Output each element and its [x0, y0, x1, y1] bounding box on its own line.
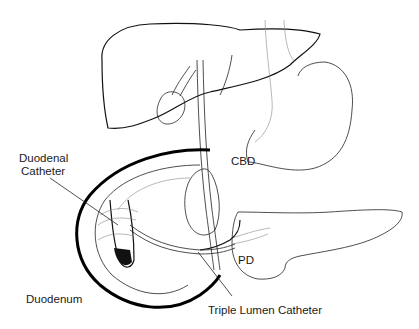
gallbladder [157, 66, 196, 124]
liver-outline [102, 23, 320, 128]
common-bile-duct [197, 60, 220, 270]
label-triple-lumen-catheter: Triple Lumen Catheter [208, 304, 322, 317]
label-cbd: CBD [231, 155, 255, 168]
label-duodenum: Duodenum [26, 293, 82, 306]
label-duodenal-catheter-1: Duodenal [19, 152, 68, 165]
label-duodenal-catheter-2: Catheter [21, 165, 65, 178]
leader-triple-lumen-catheter [198, 252, 232, 296]
anatomical-diagram: CBD Duodenal Catheter PD Duodenum Triple… [0, 0, 419, 329]
leader-duodenal-catheter [50, 178, 118, 225]
catheter-assembly [98, 200, 240, 267]
stomach-outline [246, 20, 352, 170]
duodenum [77, 150, 220, 308]
label-pd: PD [238, 254, 254, 267]
pancreas [232, 210, 402, 279]
